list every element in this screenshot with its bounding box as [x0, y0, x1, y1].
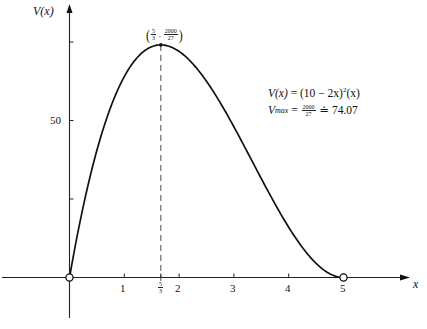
vmax-sub: max — [275, 107, 288, 115]
x-tick-5-3-den: 3 — [158, 288, 163, 294]
x-axis-arrow-icon — [400, 275, 410, 281]
x-tick-label-2: 2 — [175, 283, 181, 294]
vmax-num: 2000 — [302, 104, 316, 111]
y-tick-label-50: 50 — [50, 115, 61, 126]
vmax-v: V — [268, 105, 275, 117]
formula-volume: V(x) = (10 − 2x)2(x) — [268, 87, 360, 100]
formula-body: = (10 − 2x) — [288, 87, 343, 99]
peak-x-num: 5 — [151, 28, 156, 35]
x-tick-label-1: 1 — [120, 283, 126, 294]
x-tick-5-3-num: 5 — [158, 281, 163, 288]
x-tick-label-3: 3 — [230, 283, 236, 294]
y-axis-label: V(x) — [33, 5, 54, 17]
axis-ticks — [70, 42, 344, 278]
vmax-approx: ≐ 74.07 — [317, 105, 358, 117]
chart-plot-area — [0, 0, 427, 329]
y-axis-arrow-icon — [67, 4, 73, 13]
peak-y-den: 27 — [167, 35, 175, 41]
x-tick-label-5: 5 — [340, 283, 346, 294]
formula-vmax: Vmax = 200027 ≐ 74.07 — [268, 104, 358, 117]
open-endpoint-x5 — [340, 274, 347, 281]
volume-curve — [70, 45, 344, 278]
open-endpoint-origin — [66, 274, 73, 281]
vmax-eq: = — [288, 105, 300, 117]
x-tick-label-5-3: 53 — [157, 281, 164, 294]
x-axis-label: x — [413, 278, 418, 290]
max-point-marker — [159, 43, 163, 47]
peak-x-den: 3 — [151, 35, 156, 41]
x-tick-label-4: 4 — [285, 283, 291, 294]
vmax-den: 27 — [305, 111, 313, 117]
max-point-label: ( 53 , 200027 ) — [146, 28, 183, 41]
formula-lhs: V(x) — [268, 87, 288, 99]
peak-y-num: 2000 — [164, 28, 178, 35]
formula-tail: (x) — [346, 87, 359, 99]
